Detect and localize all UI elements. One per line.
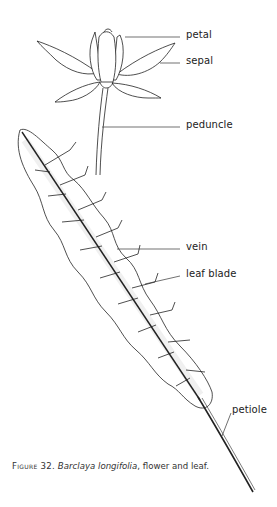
label-petal: petal — [186, 29, 212, 40]
caption-figure-number: Figure 32. — [12, 461, 55, 471]
figure-caption: Figure 32. Barclaya longifolia, flower a… — [12, 461, 209, 471]
caption-species: Barclaya longifolia — [58, 461, 137, 471]
leaf-blade-leader — [145, 276, 180, 284]
label-petiole: petiole — [232, 404, 267, 415]
botanical-illustration — [0, 0, 277, 507]
leaf — [18, 129, 255, 492]
flower — [37, 29, 175, 175]
caption-suffix: , flower and leaf. — [137, 461, 209, 471]
label-vein: vein — [186, 241, 208, 252]
petiole-leader — [222, 413, 231, 436]
label-leaf-blade: leaf blade — [186, 268, 237, 279]
label-peduncle: peduncle — [186, 119, 233, 130]
label-sepal: sepal — [186, 55, 213, 66]
